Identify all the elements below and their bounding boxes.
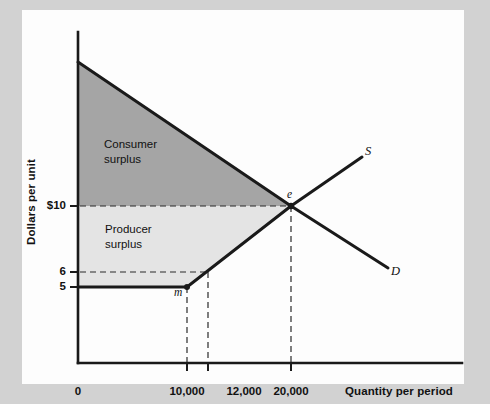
kink-point-marker [184,284,190,290]
x-tick-label-20000: 20,000 [251,385,331,397]
producer-surplus-label-line1: Producer [105,223,152,236]
demand-curve-label: D [391,264,400,279]
figure-root: Dollars per unit Quantity per period $10… [0,0,490,420]
kink-point-label: m [174,286,182,298]
x-tick-label-0: 0 [58,385,98,397]
producer-surplus-label-line2: surplus [105,238,142,251]
y-tick-label-5: 5 [26,280,66,292]
consumer-surplus-label-line1: Consumer [104,138,157,151]
x-axis-title: Quantity per period [345,385,453,397]
equilibrium-point-label: e [287,188,292,200]
y-tick-label-10: $10 [26,199,66,211]
supply-curve-label: S [365,144,371,159]
y-tick-label-6: 6 [26,265,66,277]
equilibrium-point-marker [288,203,294,209]
supply-demand-chart [0,0,490,420]
consumer-surplus-label-line2: surplus [104,153,141,166]
